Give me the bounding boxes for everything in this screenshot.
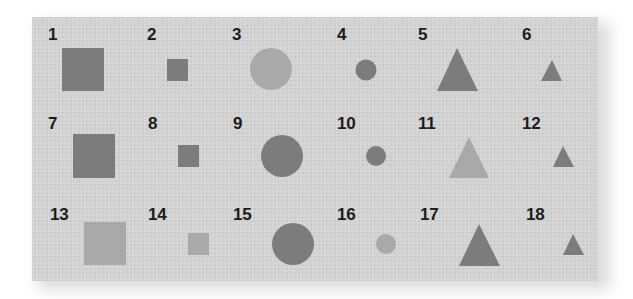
shape-8-dark-small-square	[178, 145, 199, 167]
shape-5-dark-large-triangle	[437, 48, 478, 91]
shape-7-dark-large-square	[73, 134, 115, 178]
shape-16-light-small-circle	[376, 234, 396, 254]
shape-2-dark-small-square	[167, 59, 188, 81]
shape-4-dark-small-circle	[356, 60, 377, 81]
shape-12-dark-small-triangle	[553, 146, 574, 167]
shapes-layer	[0, 0, 633, 299]
shape-3-light-large-circle	[250, 48, 292, 90]
shape-6-dark-small-triangle	[541, 60, 562, 81]
shape-15-dark-large-circle	[272, 223, 314, 265]
shape-1-dark-large-square	[62, 48, 104, 91]
shape-18-dark-small-triangle	[563, 234, 584, 255]
shape-10-dark-small-circle	[366, 146, 386, 166]
shape-17-dark-large-triangle	[459, 224, 500, 266]
shape-9-dark-large-circle	[261, 135, 303, 177]
shape-14-light-small-square	[188, 233, 209, 255]
shape-13-light-large-square	[84, 222, 126, 265]
shape-11-light-large-triangle	[449, 137, 489, 178]
